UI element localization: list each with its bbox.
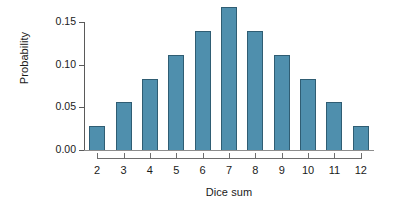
- bar-6: [195, 31, 211, 150]
- y-axis-title: Probability: [18, 16, 30, 100]
- bar-12: [353, 126, 369, 150]
- x-tick-mark: [308, 153, 309, 159]
- x-tick-label: 4: [137, 164, 163, 176]
- x-tick-label: 10: [295, 164, 321, 176]
- x-tick-mark: [334, 153, 335, 159]
- x-tick-mark: [124, 153, 125, 159]
- y-tick-label: 0.05: [38, 100, 76, 112]
- dice-sum-probability-chart: Probability Dice sum 0.000.050.100.15 23…: [0, 0, 402, 210]
- x-axis-title: Dice sum: [84, 186, 374, 198]
- y-axis-line: [84, 22, 85, 151]
- bar-8: [247, 31, 263, 150]
- bar-3: [116, 102, 132, 150]
- bar-10: [300, 79, 316, 150]
- y-tick-mark: [79, 65, 84, 66]
- y-tick-label: 0.10: [38, 58, 76, 70]
- x-tick-label: 12: [348, 164, 374, 176]
- x-tick-mark: [97, 153, 98, 159]
- x-tick-mark: [361, 153, 362, 159]
- bar-11: [326, 102, 342, 150]
- bar-9: [274, 55, 290, 150]
- x-tick-label: 3: [111, 164, 137, 176]
- bar-4: [142, 79, 158, 150]
- bar-5: [168, 55, 184, 150]
- x-tick-label: 11: [321, 164, 347, 176]
- y-tick-mark: [79, 22, 84, 23]
- x-tick-mark: [176, 153, 177, 159]
- x-tick-mark: [203, 153, 204, 159]
- y-tick-mark: [79, 107, 84, 108]
- x-tick-label: 5: [163, 164, 189, 176]
- x-tick-mark: [282, 153, 283, 159]
- x-tick-label: 6: [190, 164, 216, 176]
- x-tick-mark: [255, 153, 256, 159]
- bar-7: [221, 7, 237, 150]
- x-tick-mark: [150, 153, 151, 159]
- x-tick-label: 7: [216, 164, 242, 176]
- x-tick-label: 2: [84, 164, 110, 176]
- x-tick-label: 9: [269, 164, 295, 176]
- y-tick-label: 0.15: [38, 15, 76, 27]
- x-tick-label: 8: [242, 164, 268, 176]
- y-tick-mark: [79, 150, 84, 151]
- x-tick-mark: [229, 153, 230, 159]
- bar-2: [89, 126, 105, 150]
- x-axis-line: [84, 150, 374, 151]
- y-tick-label: 0.00: [38, 143, 76, 155]
